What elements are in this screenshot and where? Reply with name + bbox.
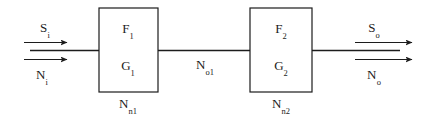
block-1-caption: Nn1: [119, 97, 137, 110]
signal-input-label: Si: [40, 21, 50, 34]
block-diagram-canvas: Si Ni F1 G1 Nn1 No1 F2 G2 Nn2 So No: [0, 0, 422, 116]
interstage-noise-label: No1: [196, 58, 214, 71]
block-1-top-label: F1: [122, 22, 133, 35]
noise-output-label: No: [367, 68, 381, 81]
block-2-bottom-label: G2: [274, 59, 288, 72]
noise-input-label: Ni: [36, 68, 48, 81]
block-1-bottom-label: G1: [121, 59, 135, 72]
block-2-caption: Nn2: [272, 97, 290, 110]
block-2-top-label: F2: [275, 22, 286, 35]
signal-output-label: So: [368, 21, 380, 34]
